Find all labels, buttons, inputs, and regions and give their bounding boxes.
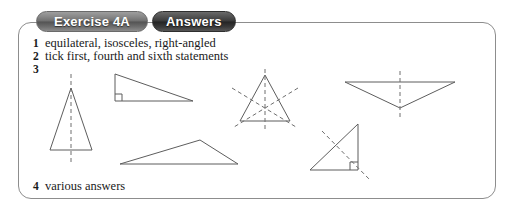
answer-text: tick first, fourth and sixth statements: [45, 50, 228, 63]
answer-text: various answers: [45, 180, 125, 193]
answer-item-3: 3: [33, 63, 45, 76]
exercise-badge: Exercise 4A: [36, 11, 148, 32]
answer-number: 2: [33, 50, 45, 63]
answer-item-4: 4 various answers: [33, 180, 125, 193]
answer-number: 3: [33, 63, 45, 76]
answer-number: 1: [33, 37, 45, 50]
answers-badge: Answers: [152, 11, 236, 32]
answer-number: 4: [33, 180, 45, 193]
answer-item-2: 2 tick first, fourth and sixth statement…: [33, 50, 228, 63]
header-bar: Exercise 4A Answers: [36, 11, 236, 32]
